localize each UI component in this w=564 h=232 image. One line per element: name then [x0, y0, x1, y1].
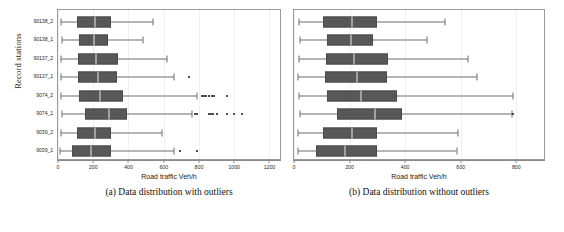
x-tick	[294, 160, 295, 163]
whisker-cap-low	[299, 111, 300, 118]
plot-area-b	[294, 10, 544, 159]
gridline	[128, 10, 129, 159]
x-axis-title-a: Road traffic Veh/h	[57, 173, 281, 180]
x-tick-label: 200	[89, 164, 98, 170]
whisker-cap-low	[61, 55, 62, 62]
box-iqr	[78, 53, 118, 64]
outlier-point	[179, 150, 181, 152]
y-axis-tick-labels: 90138_290138_190137_290137_19074_29074_1…	[0, 9, 56, 160]
whisker-cap-high	[167, 55, 168, 62]
whisker-cap-low	[297, 148, 298, 155]
whisker-cap-high	[513, 92, 514, 99]
whisker-line	[62, 114, 192, 115]
gridline	[199, 10, 200, 159]
whisker-cap-high	[457, 129, 458, 136]
box-iqr	[323, 127, 377, 138]
whisker-cap-low	[298, 74, 299, 81]
median-line	[95, 17, 96, 28]
x-tick-label: 1200	[264, 164, 276, 170]
x-tick-label: 0	[293, 164, 296, 170]
whisker-cap-high	[467, 55, 468, 62]
outlier-point	[216, 113, 218, 115]
whisker-line	[300, 114, 513, 115]
x-axis-title-b: Road traffic Veh/h	[293, 173, 545, 180]
outlier-point	[241, 113, 243, 115]
x-tick	[198, 160, 199, 163]
x-tick-label: 800	[195, 164, 204, 170]
outlier-point	[213, 95, 215, 97]
x-tick	[234, 160, 235, 163]
whisker-cap-high	[477, 74, 478, 81]
y-tick-label-9039_1: 9039_1	[36, 147, 53, 153]
whisker-cap-low	[298, 129, 299, 136]
x-tick	[516, 160, 517, 163]
x-tick-label: 600	[159, 164, 168, 170]
box-iqr	[316, 146, 378, 157]
box-iqr	[337, 109, 402, 120]
median-line	[109, 109, 110, 120]
x-axis-b	[293, 160, 545, 161]
gridline	[164, 10, 165, 159]
whisker-cap-low	[60, 129, 61, 136]
whisker-cap-high	[427, 37, 428, 44]
median-line	[374, 109, 375, 120]
box-iqr	[323, 17, 377, 28]
outlier-point	[208, 95, 210, 97]
median-line	[350, 35, 351, 46]
whisker-cap-low	[299, 19, 300, 26]
median-line	[352, 127, 353, 138]
whisker-cap-high	[197, 92, 198, 99]
median-line	[95, 127, 96, 138]
x-tick-label: 400	[124, 164, 133, 170]
outlier-point	[233, 113, 235, 115]
y-tick-label-90138_2: 90138_2	[34, 18, 54, 24]
gridline	[58, 10, 59, 159]
gridline	[294, 10, 295, 159]
median-line	[353, 53, 354, 64]
x-tick-label: 0	[57, 164, 60, 170]
whisker-cap-low	[61, 92, 62, 99]
x-tick	[405, 160, 406, 163]
whisker-cap-high	[142, 37, 143, 44]
panel-with-outliers: 020040060080010001200 Road traffic Veh/h…	[57, 9, 281, 175]
box-iqr	[326, 53, 389, 64]
x-tick-label: 600	[456, 164, 465, 170]
box-iqr	[72, 146, 111, 157]
x-tick	[58, 160, 59, 163]
plot-area-a	[58, 10, 280, 159]
box-iqr	[79, 90, 123, 101]
y-tick-label-90137_2: 90137_2	[34, 55, 54, 61]
x-tick	[269, 160, 270, 163]
median-line	[100, 90, 101, 101]
x-tick-label: 200	[345, 164, 354, 170]
whisker-cap-low	[299, 55, 300, 62]
box-iqr	[85, 109, 126, 120]
x-tick	[460, 160, 461, 163]
outlier-point	[512, 113, 514, 115]
caption-a: (a) Data distribution with outliers	[57, 187, 281, 197]
median-line	[345, 146, 346, 157]
x-tick-label: 800	[512, 164, 521, 170]
median-line	[94, 35, 95, 46]
outlier-point	[226, 95, 228, 97]
whisker-cap-low	[60, 74, 61, 81]
y-tick-label-9074_1: 9074_1	[36, 110, 53, 116]
median-line	[356, 72, 357, 83]
whisker-cap-high	[174, 148, 175, 155]
whisker-cap-high	[161, 129, 162, 136]
x-axis-a	[57, 160, 281, 161]
whisker-cap-high	[174, 74, 175, 81]
caption-b: (b) Data distribution without outliers	[293, 187, 545, 197]
outlier-point	[188, 76, 190, 78]
x-tick	[93, 160, 94, 163]
y-tick-label-90137_1: 90137_1	[34, 73, 54, 79]
whisker-cap-low	[61, 19, 62, 26]
whisker-cap-high	[191, 111, 192, 118]
gridline	[269, 10, 270, 159]
box-iqr	[327, 90, 396, 101]
x-tick	[128, 160, 129, 163]
median-line	[352, 17, 353, 28]
y-tick-label-90138_1: 90138_1	[34, 36, 54, 42]
outlier-point	[196, 113, 198, 115]
plot-frame-a	[57, 9, 281, 160]
